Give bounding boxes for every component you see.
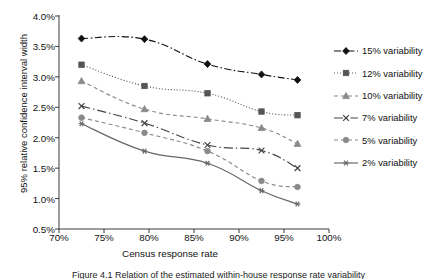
data-point-marker: [295, 112, 300, 117]
legend-label: 5% variability: [362, 136, 417, 145]
data-point-marker: [205, 161, 211, 166]
series-line: [82, 118, 298, 187]
data-point-marker: [295, 184, 301, 190]
data-point-marker: [142, 130, 148, 136]
data-series: [78, 35, 301, 83]
legend-label: 2% variability: [362, 158, 417, 167]
x-axis-label: Census response rate: [0, 248, 340, 259]
series-line: [82, 65, 298, 116]
data-point-marker: [79, 62, 84, 67]
data-series: [79, 62, 300, 118]
data-point-marker: [204, 61, 211, 68]
data-point-marker: [343, 138, 349, 144]
data-series: [79, 121, 301, 206]
legend-item[interactable]: 10% variability: [333, 85, 437, 107]
x-tick-label: 95%: [274, 232, 294, 243]
data-point-marker: [259, 188, 265, 193]
data-point-marker: [343, 160, 349, 165]
series-line: [82, 36, 298, 79]
data-point-marker: [79, 121, 85, 126]
x-tick-label: 85%: [184, 232, 204, 243]
data-point-marker: [141, 36, 148, 43]
legend-item[interactable]: 2% variability: [333, 151, 437, 173]
legend-label: 15% variability: [362, 46, 422, 55]
chart-figure: 95% relative confidence interval width 0…: [0, 0, 437, 279]
legend-marker-icon: [333, 44, 359, 58]
x-tick-label: 100%: [316, 232, 341, 243]
data-point-marker: [78, 35, 85, 42]
legend-marker-icon: [333, 156, 359, 170]
data-point-marker: [205, 148, 211, 154]
data-series: [78, 78, 301, 147]
data-series-group: [78, 35, 301, 206]
data-point-marker: [343, 48, 350, 55]
legend-marker-icon: [333, 66, 359, 80]
data-series: [79, 115, 301, 190]
data-point-marker: [295, 165, 301, 171]
legend-item[interactable]: 5% variability: [333, 129, 437, 151]
data-point-marker: [78, 78, 85, 84]
data-point-marker: [295, 202, 301, 207]
data-point-marker: [343, 115, 349, 121]
data-point-marker: [79, 115, 85, 121]
legend-label: 10% variability: [362, 91, 422, 100]
x-tick-label: 90%: [229, 232, 249, 243]
legend-label: 7% variability: [362, 113, 417, 122]
x-tick-label: 80%: [139, 232, 159, 243]
data-point-marker: [205, 91, 210, 96]
data-point-marker: [142, 83, 147, 88]
legend-item[interactable]: 15% variability: [333, 40, 437, 62]
figure-caption: Figure 4.1 Relation of the estimated wit…: [0, 270, 437, 279]
x-tick-label: 70%: [49, 232, 69, 243]
legend-marker-icon: [333, 111, 359, 125]
legend-marker-icon: [333, 133, 359, 147]
chart-legend: 15% variability12% variability10% variab…: [333, 40, 437, 174]
data-point-marker: [343, 71, 348, 76]
x-tick-label: 75%: [94, 232, 114, 243]
data-point-marker: [259, 178, 265, 184]
legend-item[interactable]: 7% variability: [333, 107, 437, 129]
legend-label: 12% variability: [362, 69, 422, 78]
data-point-marker: [204, 115, 211, 121]
series-line: [82, 124, 298, 204]
legend-marker-icon: [333, 89, 359, 103]
data-point-marker: [142, 149, 148, 154]
data-point-marker: [258, 71, 265, 78]
data-point-marker: [142, 120, 148, 126]
data-point-marker: [259, 109, 264, 114]
legend-item[interactable]: 12% variability: [333, 62, 437, 84]
data-point-marker: [294, 76, 301, 83]
